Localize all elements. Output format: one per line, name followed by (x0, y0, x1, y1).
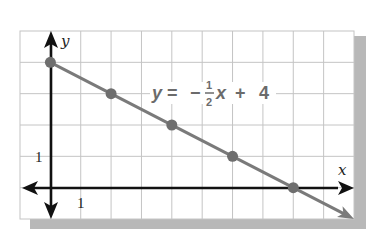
graph-shadow-bottom (30, 219, 366, 229)
equation-equals: = (167, 83, 178, 103)
data-point (288, 182, 299, 193)
equation-lhs: y (151, 83, 163, 103)
line-graph: y x 1 1 y = − 1 2 x + 4 (0, 0, 370, 241)
x-axis-label: x (338, 161, 347, 179)
equation-label: y = − 1 2 x + 4 (150, 79, 276, 108)
y-tick-label: 1 (35, 149, 43, 165)
data-point (227, 151, 238, 162)
x-tick-label: 1 (77, 195, 85, 211)
y-axis-label: y (60, 32, 70, 50)
equation-variable: x (215, 83, 227, 103)
equation-constant: 4 (259, 83, 269, 103)
equation-denominator: 2 (206, 96, 212, 108)
equation-minus: − (190, 83, 201, 103)
equation-plus: + (235, 83, 246, 103)
data-point (106, 88, 117, 99)
data-point (45, 57, 56, 68)
equation-numerator: 1 (206, 79, 212, 91)
graph-shadow-right (354, 36, 366, 229)
data-point (166, 120, 177, 131)
